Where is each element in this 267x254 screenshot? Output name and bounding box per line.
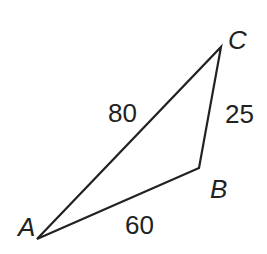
- vertex-label-c: C: [228, 25, 247, 55]
- triangle-diagram: C 80 25 B A 60: [0, 0, 267, 254]
- vertex-label-b: B: [210, 174, 227, 204]
- side-label-bc: 25: [225, 99, 254, 129]
- side-label-ab: 60: [125, 210, 154, 240]
- vertex-label-a: A: [16, 212, 35, 242]
- side-label-ac: 80: [108, 98, 137, 128]
